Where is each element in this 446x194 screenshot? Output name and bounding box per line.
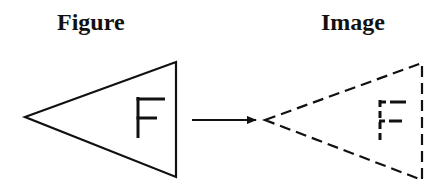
- figure-to-image-diagram: [0, 0, 446, 194]
- figure-letter-f: [137, 97, 166, 138]
- image-letter-f: [379, 100, 406, 142]
